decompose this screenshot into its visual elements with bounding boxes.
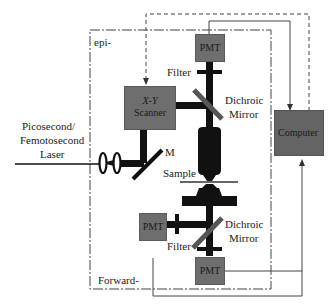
lens-2 (114, 153, 121, 173)
pmt-left-label: PMT (139, 221, 167, 232)
dichroic-top-label-1: Dichroic (225, 94, 263, 106)
laser-label-3: Laser (40, 148, 64, 160)
dichroic-top-label-2: Mirror (229, 108, 258, 120)
filter-bottom-label: Filter (167, 240, 191, 252)
condenser-top (202, 184, 217, 188)
arrow-up-computer (299, 159, 305, 166)
beam-to-left-pmt (160, 221, 210, 228)
sample-label: Sample (163, 167, 196, 179)
pmt-bottom-label: PMT (195, 265, 225, 276)
pmt-top-label: PMT (195, 42, 225, 53)
lens-1 (100, 153, 107, 173)
laser-label-1: Picosecond/ (22, 120, 75, 132)
filter-bottom-horizontal (197, 247, 222, 251)
forward-label: Forward- (98, 274, 139, 286)
condenser-body (196, 188, 222, 196)
laser-label-2: Femotosecond (20, 134, 84, 146)
arrow-down-scanner (143, 78, 149, 85)
filter-top-label: Filter (167, 66, 191, 78)
dichroic-bottom-label-1: Dichroic (225, 218, 263, 230)
xy-scanner-label-2: Scanner (124, 107, 176, 118)
objective-tip (203, 175, 216, 181)
epi-label: epi- (94, 36, 111, 48)
xy-scanner-label-1: X-Y (124, 95, 176, 106)
diagram-canvas: PMT X-Y Scanner Computer PMT PMT epi- Fo… (0, 0, 334, 306)
condenser-base (182, 196, 237, 206)
filter-left (175, 214, 179, 234)
filter-top (197, 70, 222, 74)
objective-top (198, 127, 221, 175)
dichroic-bottom-label-2: Mirror (229, 232, 258, 244)
computer-label: Computer (272, 127, 324, 138)
mirror-m-label: M (165, 146, 175, 158)
